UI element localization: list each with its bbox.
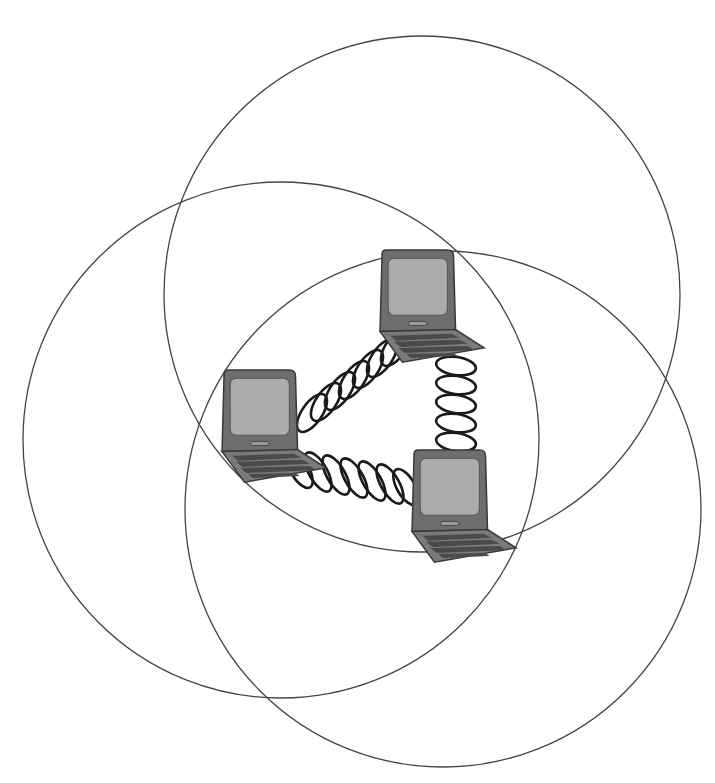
laptop-icon-bottom-right bbox=[412, 450, 516, 562]
network-diagram bbox=[0, 0, 715, 783]
coil-link-top-bottom-right bbox=[435, 354, 477, 453]
laptop-icon-left bbox=[222, 370, 326, 482]
laptop-icon-top bbox=[380, 250, 484, 362]
